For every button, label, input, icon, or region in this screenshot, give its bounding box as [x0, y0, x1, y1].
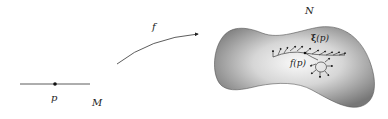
xi-p-label: ξ(p)	[311, 34, 329, 43]
diagram-canvas	[0, 0, 388, 119]
point-p	[53, 82, 57, 86]
manifold-n-label: N	[305, 6, 314, 16]
f-p-label: f(p)	[290, 59, 306, 68]
manifold-m-label: M	[92, 98, 102, 108]
manifold-m	[20, 82, 90, 86]
map-f-label: f	[152, 22, 156, 32]
manifold-map-diagram: p M f N f(p) ξ(p)	[0, 0, 388, 119]
map-f-arrow	[117, 34, 198, 64]
point-f-p	[304, 52, 307, 55]
point-p-label: p	[51, 93, 57, 103]
xi-arg: (p)	[316, 33, 329, 43]
